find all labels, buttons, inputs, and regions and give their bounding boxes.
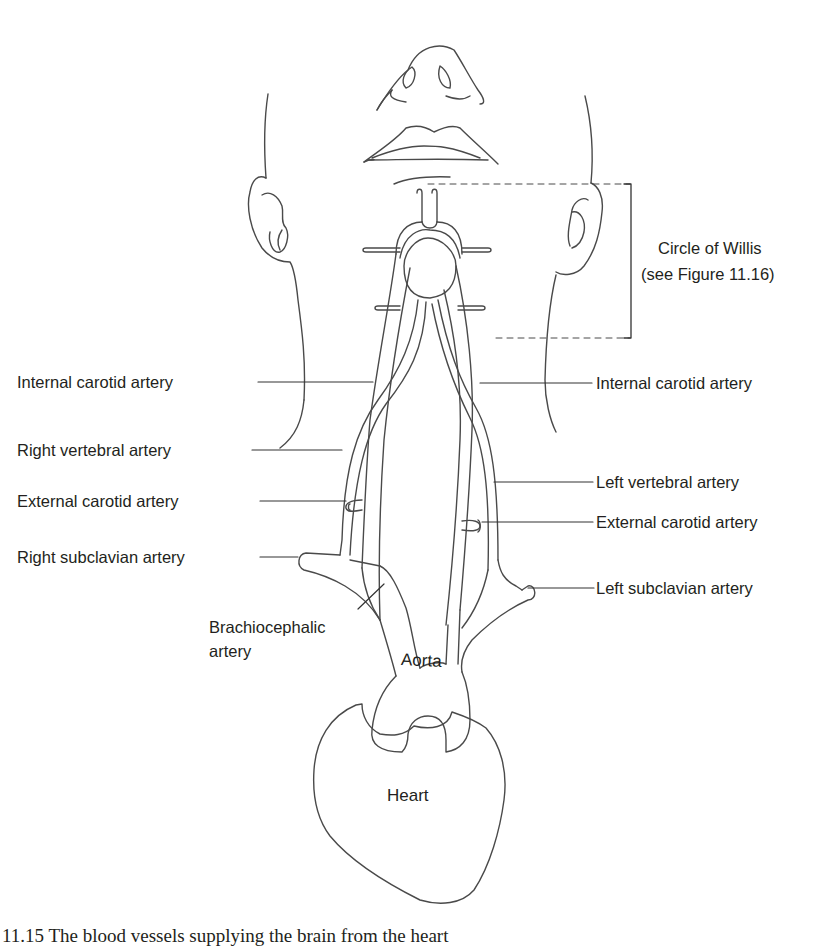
figure-caption: 11.15 The blood vessels supplying the br… (2, 925, 448, 947)
circle-of-willis (363, 189, 491, 310)
label-right-internal-carotid: Internal carotid artery (17, 372, 173, 392)
label-left-external-carotid: External carotid artery (596, 512, 757, 532)
circle-of-willis-label: Circle of Willis (658, 238, 762, 258)
label-right-subclavian: Right subclavian artery (17, 547, 185, 567)
leader-lines (252, 382, 594, 609)
label-aorta: Aorta (401, 650, 443, 672)
label-right-vertebral: Right vertebral artery (17, 440, 171, 460)
label-brachiocephalic-artery: artery (209, 641, 251, 661)
label-left-vertebral: Left vertebral artery (596, 472, 739, 492)
label-right-external-carotid: External carotid artery (17, 491, 178, 511)
head-outline (249, 46, 603, 448)
label-left-internal-carotid: Internal carotid artery (596, 373, 752, 393)
label-left-subclavian: Left subclavian artery (596, 578, 753, 598)
circle-of-willis-reference: (see Figure 11.16) (641, 264, 775, 284)
label-brachiocephalic: Brachiocephalic (209, 617, 325, 637)
circle-of-willis-bracket (428, 184, 631, 338)
label-heart: Heart (387, 786, 429, 806)
